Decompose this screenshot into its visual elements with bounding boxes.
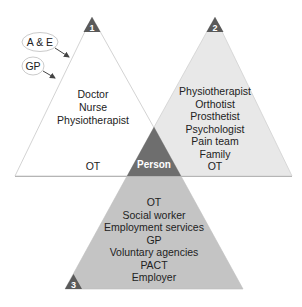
- triangle-2-member: Prosthetist: [190, 110, 240, 122]
- badge-3-number: 3: [71, 280, 76, 290]
- person-label: Person: [137, 159, 171, 170]
- badge-1-number: 1: [89, 23, 94, 33]
- triangle-2-member: OT: [208, 160, 223, 172]
- triangle-2-member: Orthotist: [195, 98, 235, 110]
- care-triangles-diagram: 1 2 3 A & E GP Doctor Nurse Physiotherap…: [0, 0, 302, 307]
- triangle-3-member: Employer: [132, 271, 177, 283]
- entry-point-a-and-e: A & E: [22, 33, 69, 58]
- triangle-1-member: Physiotherapist: [57, 114, 129, 126]
- triangle-2-member: Psychologist: [186, 123, 245, 135]
- triangle-3-member: Voluntary agencies: [110, 246, 199, 258]
- triangle-3-member: Employment services: [104, 221, 204, 233]
- triangle-1-member: Doctor: [78, 88, 109, 100]
- entry-point-gp: GP: [22, 57, 55, 78]
- badge-2: 2: [207, 17, 224, 33]
- triangle-3-member: GP: [146, 234, 161, 246]
- triangle-3-member: PACT: [140, 259, 168, 271]
- triangle-2-member: Family: [200, 148, 232, 160]
- triangle-1-member: Nurse: [79, 101, 107, 113]
- a-and-e-arrow-icon: [55, 48, 69, 57]
- badge-1: 1: [84, 17, 101, 33]
- triangle-3-member: Social worker: [122, 209, 186, 221]
- triangle-1-footer: OT: [86, 160, 101, 172]
- badge-2-number: 2: [212, 23, 217, 33]
- triangle-2-member: Pain team: [191, 135, 239, 147]
- triangle-3-member: OT: [147, 196, 162, 208]
- triangle-2-member: Physiotherapist: [179, 85, 251, 97]
- gp-label: GP: [25, 60, 40, 72]
- a-and-e-label: A & E: [27, 36, 53, 48]
- gp-arrow-icon: [43, 71, 55, 78]
